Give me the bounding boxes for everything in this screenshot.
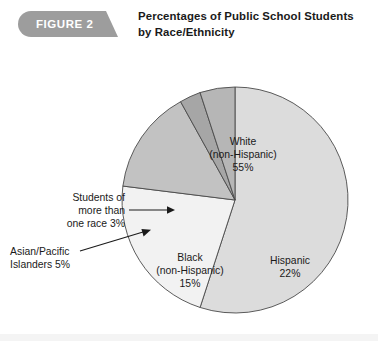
figure-bottom-strip: [0, 334, 378, 341]
pie-label-white-line-3: 55%: [233, 162, 254, 173]
pie-label-asian-pacific-line-1: Asian/Pacific: [10, 246, 69, 257]
pie-label-more-than-one-race-line-3: one race 3%: [67, 218, 125, 229]
pie-label-white-line-2: (non-Hispanic): [209, 149, 277, 160]
pie-chart-svg: White (non-Hispanic) 55% Hispanic 22% Bl…: [0, 56, 378, 341]
pie-label-black-line-2: (non-Hispanic): [156, 265, 224, 276]
pie-label-black-line-1: Black: [177, 252, 203, 263]
pie-label-more-than-one-race-line-1: Students of: [72, 192, 125, 203]
pie-label-hispanic-line-2: 22%: [280, 268, 301, 279]
pie-label-asian-pacific-line-2: Islanders 5%: [10, 259, 70, 270]
pie-chart-area: White (non-Hispanic) 55% Hispanic 22% Bl…: [0, 56, 378, 341]
figure-number-banner-text-wrap: FIGURE 2: [18, 11, 118, 37]
figure-root: FIGURE 2 Percentages of Public School St…: [0, 0, 378, 341]
figure-number-label: FIGURE 2: [18, 18, 93, 30]
figure-title-line-2: by Race/Ethnicity: [138, 25, 370, 41]
figure-title: Percentages of Public School Students by…: [138, 9, 370, 40]
pie-label-hispanic-line-1: Hispanic: [270, 255, 310, 266]
pie-label-more-than-one-race-line-2: more than: [78, 205, 125, 216]
pie-label-white-line-1: White: [230, 136, 257, 147]
figure-title-line-1: Percentages of Public School Students: [138, 9, 370, 25]
figure-header: FIGURE 2 Percentages of Public School St…: [0, 0, 378, 56]
pie-label-black-line-3: 15%: [180, 278, 201, 289]
